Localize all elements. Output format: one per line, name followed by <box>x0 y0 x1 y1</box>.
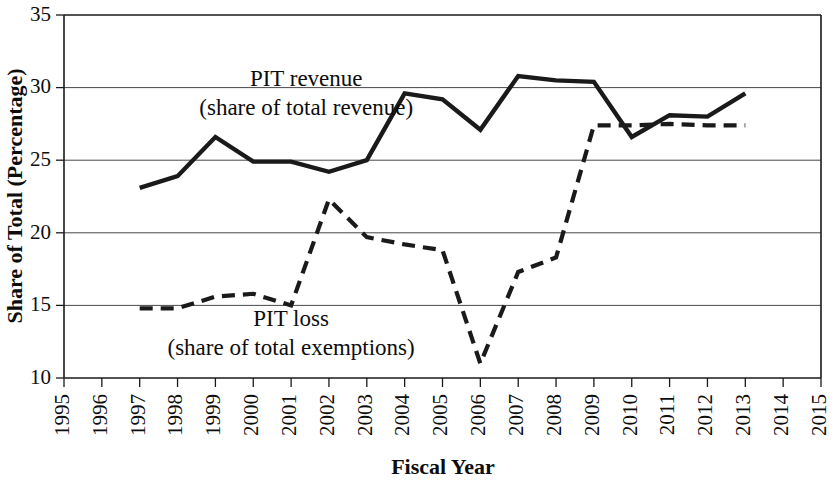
series-pit-revenue-line <box>140 76 746 188</box>
y-tick-label-35: 35 <box>30 2 51 26</box>
y-tick-label-20: 20 <box>30 220 51 244</box>
pit-loss-label-line-2: (share of total exemptions) <box>168 335 415 360</box>
x-tick-label-2014: 2014 <box>769 394 793 437</box>
x-tick-label-1998: 1998 <box>163 394 187 436</box>
x-tick-label-1999: 1999 <box>201 394 225 436</box>
x-tick-label-2011: 2011 <box>655 394 679 435</box>
x-tick-label-2009: 2009 <box>580 394 604 436</box>
x-tick-label-2012: 2012 <box>693 394 717 436</box>
pit-revenue-label-line-2: (share of total revenue) <box>199 95 413 120</box>
x-tick-label-1996: 1996 <box>88 394 112 436</box>
x-tick-label-2000: 2000 <box>239 394 263 436</box>
x-tick-label-1997: 1997 <box>126 394 150 436</box>
x-axis-ticks: 1995199619971998199920002001200220032004… <box>50 378 831 436</box>
x-tick-label-2004: 2004 <box>390 394 414 437</box>
x-tick-label-2015: 2015 <box>807 394 831 436</box>
x-tick-label-2010: 2010 <box>618 394 642 436</box>
x-tick-label-2013: 2013 <box>731 394 755 436</box>
y-axis-title: Share of Total (Percentage) <box>2 68 27 323</box>
y-tick-label-25: 25 <box>30 147 51 171</box>
x-tick-label-2007: 2007 <box>504 394 528 436</box>
x-tick-label-1995: 1995 <box>50 394 74 436</box>
chart-annotations: PIT revenue(share of total revenue)PIT l… <box>168 66 415 360</box>
x-tick-label-2001: 2001 <box>277 394 301 436</box>
y-tick-label-15: 15 <box>30 292 51 316</box>
pit-loss-label-line-1: PIT loss <box>253 306 329 331</box>
x-tick-label-2002: 2002 <box>315 394 339 436</box>
x-axis: 1995199619971998199920002001200220032004… <box>50 15 831 436</box>
y-tick-label-30: 30 <box>30 74 51 98</box>
line-chart-svg: 101520253035 199519961997199819992000200… <box>0 0 835 483</box>
x-tick-label-2003: 2003 <box>353 394 377 436</box>
grid-lines <box>64 88 821 306</box>
y-axis-ticks: 101520253035 <box>30 2 64 389</box>
x-tick-label-2008: 2008 <box>542 394 566 436</box>
x-axis-title: Fiscal Year <box>391 454 495 479</box>
x-tick-label-2005: 2005 <box>428 394 452 436</box>
y-axis: 101520253035 <box>30 2 64 389</box>
chart-figure: 101520253035 199519961997199819992000200… <box>0 0 835 483</box>
x-tick-label-2006: 2006 <box>466 394 490 436</box>
pit-revenue-label-line-1: PIT revenue <box>250 66 363 91</box>
y-tick-label-10: 10 <box>30 365 51 389</box>
